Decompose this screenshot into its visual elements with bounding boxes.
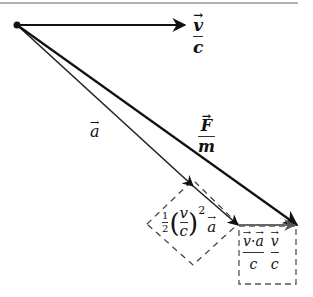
v-symbol: v [193,17,203,34]
half-numerator: 1 [162,211,168,221]
a-vector-first-part [17,25,193,186]
a-symbol: a [90,124,100,140]
fraction-bar [271,252,279,253]
m-symbol: m [198,139,215,155]
half-v-over-c-squared-a-label: 1 2 ( v c ) 2 a [162,206,216,239]
a-label: a [90,124,100,140]
right-paren: ) [188,210,198,236]
half-denominator: 2 [162,224,168,234]
F-symbol: F [201,118,212,134]
v-dot-a-over-c-times-v-over-c-label: v·a c v c [243,234,279,271]
left-paren: ( [169,210,179,236]
one-half: 1 2 [162,211,168,234]
v-over-c: v c [271,234,279,271]
c-symbol: c [249,257,257,271]
F-over-m-label: F m [198,118,215,155]
v-symbol: v [180,206,188,221]
v-over-c-label: v c [193,17,203,56]
a-symbol: a [207,218,216,236]
v-dot-a-over-c: v·a c [243,234,264,271]
c-symbol: c [193,39,203,56]
v-symbol: v [271,234,279,248]
exponent: 2 [198,204,205,217]
a-symbol: a [255,234,263,248]
relativistic-force-diagram: v c a F m 1 2 ( v c ) 2 a v·a c [0,0,313,297]
origin-dot [14,22,21,29]
fraction-bar [243,252,264,253]
v-over-c-inner: v c [180,206,188,239]
c-symbol: c [271,257,279,271]
F-over-m-vector [17,25,297,225]
c-symbol: c [180,224,188,239]
v-symbol: v [243,234,251,248]
